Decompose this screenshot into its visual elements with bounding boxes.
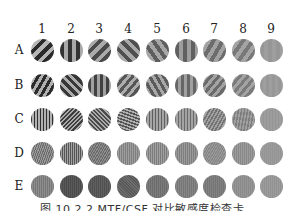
grating-patch bbox=[117, 74, 140, 97]
grating-patch bbox=[260, 142, 283, 165]
grating-patch bbox=[88, 74, 111, 97]
column-label: 9 bbox=[261, 22, 281, 36]
grating-patch bbox=[88, 39, 111, 62]
grating-patch bbox=[31, 74, 54, 97]
grating-patch bbox=[146, 108, 169, 131]
figure-caption: 图 10.2.2 MTF/CSF 对比敏感度检查卡 bbox=[40, 203, 280, 211]
grating-patch bbox=[31, 142, 54, 165]
grating-patch bbox=[146, 74, 169, 97]
grating-patch bbox=[260, 108, 283, 131]
grating-patch bbox=[203, 108, 226, 131]
column-label: 5 bbox=[147, 22, 167, 36]
grating-patch bbox=[117, 175, 140, 198]
grating-patch bbox=[175, 74, 198, 97]
grating-patch bbox=[232, 142, 255, 165]
column-label: 1 bbox=[32, 22, 52, 36]
grating-patch bbox=[31, 39, 54, 62]
grating-patch bbox=[175, 108, 198, 131]
grating-patch bbox=[232, 108, 255, 131]
column-label: 4 bbox=[118, 22, 138, 36]
column-label: 7 bbox=[204, 22, 224, 36]
grating-patch bbox=[175, 142, 198, 165]
grating-patch bbox=[146, 39, 169, 62]
grating-patch bbox=[31, 175, 54, 198]
grating-patch bbox=[232, 175, 255, 198]
grating-patch bbox=[232, 39, 255, 62]
column-label: 8 bbox=[233, 22, 253, 36]
contrast-sensitivity-chart: 123456789 ABCDE 图 10.2.2 MTF/CSF 对比敏感度检查… bbox=[0, 0, 291, 211]
grating-patch bbox=[60, 108, 83, 131]
row-label: B bbox=[12, 78, 26, 92]
grating-patch bbox=[203, 142, 226, 165]
grating-patch bbox=[146, 142, 169, 165]
grating-patch bbox=[117, 108, 140, 131]
grating-patch bbox=[117, 39, 140, 62]
column-label: 2 bbox=[61, 22, 81, 36]
grating-patch bbox=[203, 74, 226, 97]
grating-patch bbox=[88, 175, 111, 198]
grating-patch bbox=[175, 39, 198, 62]
grating-patch bbox=[260, 39, 283, 62]
grating-patch bbox=[117, 142, 140, 165]
column-label: 3 bbox=[89, 22, 109, 36]
grating-patch bbox=[60, 39, 83, 62]
grating-patch bbox=[203, 175, 226, 198]
grating-patch bbox=[60, 74, 83, 97]
grating-patch bbox=[88, 108, 111, 131]
grating-patch bbox=[260, 74, 283, 97]
row-label: E bbox=[12, 179, 26, 193]
grating-patch bbox=[60, 142, 83, 165]
grating-patch bbox=[260, 175, 283, 198]
grating-patch bbox=[232, 74, 255, 97]
grating-patch bbox=[31, 108, 54, 131]
column-label: 6 bbox=[176, 22, 196, 36]
grating-patch bbox=[175, 175, 198, 198]
grating-patch bbox=[88, 142, 111, 165]
grating-patch bbox=[203, 39, 226, 62]
row-label: A bbox=[12, 43, 26, 57]
grating-patch bbox=[146, 175, 169, 198]
row-label: D bbox=[12, 146, 26, 160]
row-label: C bbox=[12, 112, 26, 126]
grating-patch bbox=[60, 175, 83, 198]
